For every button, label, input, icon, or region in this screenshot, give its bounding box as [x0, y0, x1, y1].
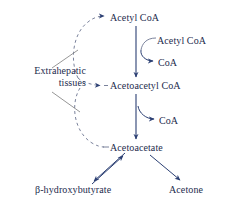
edge-coa-lower-release	[138, 106, 154, 119]
extrahepatic-line-1: Extrahepatic	[34, 65, 86, 76]
node-acetoacetyl-coa: Acetoacetyl CoA	[110, 80, 181, 92]
edge-acetyl-coa-side-input	[141, 38, 156, 50]
pathway-arrows-layer	[0, 0, 226, 207]
edge-acetoacetate-to-acetone	[150, 155, 180, 180]
node-acetone: Acetone	[169, 184, 203, 196]
node-acetoacetate: Acetoacetate	[110, 142, 163, 154]
extrahepatic-line-2: tissues	[59, 77, 86, 88]
edge-acetoacetate-to-beta-hydroxybutyrate	[92, 153, 125, 184]
node-acetyl-coa-side: Acetyl CoA	[157, 35, 206, 47]
node-coa-lower: CoA	[159, 115, 178, 127]
ketone-body-pathway-diagram: Acetyl CoA Acetyl CoA CoA Acetoacetyl Co…	[0, 0, 226, 207]
node-extrahepatic-tissues: Extrahepatic tissues	[8, 65, 86, 88]
node-beta-hydroxybutyrate: β-hydroxybutyrate	[35, 184, 111, 196]
edge-extrahepatic-to-acetoacetate	[75, 88, 109, 147]
node-acetyl-coa-top: Acetyl CoA	[110, 12, 159, 24]
edge-coa-upper-release	[141, 50, 153, 61]
node-coa-upper: CoA	[158, 57, 177, 69]
